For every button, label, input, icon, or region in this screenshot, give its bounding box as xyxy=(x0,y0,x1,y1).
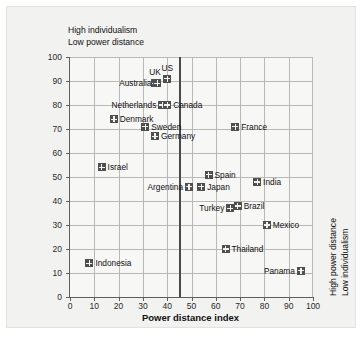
data-point-label: Japan xyxy=(207,182,230,192)
x-tick-label: 100 xyxy=(306,301,320,311)
y-tick xyxy=(66,249,70,250)
y-tick-label: 30 xyxy=(53,220,62,230)
y-tick-label: 90 xyxy=(53,76,62,86)
annotation-top-left-line1: High individualism xyxy=(68,25,144,37)
annotation-right: High power distance Low individualism xyxy=(328,218,351,296)
data-point-marker[interactable] xyxy=(234,202,242,210)
data-point-label: India xyxy=(263,177,281,187)
y-tick xyxy=(66,201,70,202)
data-point-label: Sweden xyxy=(151,122,181,132)
data-point-marker[interactable] xyxy=(163,101,171,109)
y-tick xyxy=(66,273,70,274)
data-point-label: Israel xyxy=(108,162,128,172)
data-point-label: Spain xyxy=(215,170,236,180)
data-point-marker[interactable] xyxy=(141,123,149,131)
y-tick-label: 60 xyxy=(53,148,62,158)
x-tick-label: 80 xyxy=(260,301,269,311)
y-axis-title: Individualism index xyxy=(0,83,1,171)
data-point-marker[interactable] xyxy=(185,183,193,191)
scatter-chart-figure: High individualism Low power distance Hi… xyxy=(0,0,362,340)
y-tick-label: 40 xyxy=(53,196,62,206)
data-point-label: Netherlands xyxy=(112,100,157,110)
chart-panel: High individualism Low power distance Hi… xyxy=(6,6,356,328)
data-point-marker[interactable] xyxy=(253,178,261,186)
data-point-marker[interactable] xyxy=(151,132,159,140)
y-tick-label: 20 xyxy=(53,244,62,254)
y-tick-label: 80 xyxy=(53,100,62,110)
annotation-right-line1: High power distance xyxy=(328,218,340,296)
x-tick-label: 30 xyxy=(138,301,147,311)
data-point-marker[interactable] xyxy=(263,221,271,229)
data-point-label: Australia xyxy=(119,78,151,88)
data-point-label: Brazil xyxy=(244,201,265,211)
x-axis-title: Power distance index xyxy=(69,312,312,323)
x-tick-label: 70 xyxy=(235,301,244,311)
x-tick-label: 20 xyxy=(114,301,123,311)
y-tick xyxy=(66,105,70,106)
data-point-marker[interactable] xyxy=(197,183,205,191)
y-tick xyxy=(66,153,70,154)
y-tick-label: 50 xyxy=(53,172,62,182)
data-point-label: Panama xyxy=(264,266,295,276)
plot-area: 0102030405060708090100010203040506070809… xyxy=(69,57,313,298)
data-point-marker[interactable] xyxy=(110,115,118,123)
data-point-label: Mexico xyxy=(273,220,299,230)
data-point-marker[interactable] xyxy=(297,267,305,275)
data-point-label: Indonesia xyxy=(95,258,131,268)
reference-line xyxy=(179,57,180,297)
x-tick-label: 60 xyxy=(211,301,220,311)
data-point-marker[interactable] xyxy=(205,171,213,179)
y-gridline xyxy=(70,57,313,58)
y-gridline xyxy=(70,201,313,202)
y-gridline xyxy=(70,249,313,250)
y-tick xyxy=(66,129,70,130)
y-gridline xyxy=(70,129,313,130)
data-point-marker[interactable] xyxy=(226,204,234,212)
data-point-label: Germany xyxy=(161,131,195,141)
x-tick-label: 90 xyxy=(284,301,293,311)
y-tick-label: 10 xyxy=(53,268,62,278)
y-gridline xyxy=(70,81,313,82)
data-point-label: Thailand xyxy=(232,244,264,254)
annotation-right-line2: Low individualism xyxy=(339,218,351,296)
data-point-label: France xyxy=(241,122,267,132)
data-point-marker[interactable] xyxy=(231,123,239,131)
data-point-label: UK xyxy=(149,67,161,77)
data-point-marker[interactable] xyxy=(98,163,106,171)
data-point-label: Turkey xyxy=(199,203,224,213)
data-point-label: US xyxy=(161,63,173,73)
y-tick xyxy=(66,81,70,82)
y-tick xyxy=(66,57,70,58)
y-tick-label: 0 xyxy=(57,292,62,302)
y-tick xyxy=(66,177,70,178)
x-tick-label: 40 xyxy=(162,301,171,311)
y-gridline xyxy=(70,153,313,154)
data-point-marker[interactable] xyxy=(85,259,93,267)
y-tick-label: 70 xyxy=(53,124,62,134)
y-tick xyxy=(66,297,70,298)
annotation-top-left-line2: Low power distance xyxy=(68,37,144,49)
data-point-marker[interactable] xyxy=(222,245,230,253)
data-point-marker[interactable] xyxy=(153,79,161,87)
y-tick xyxy=(66,225,70,226)
x-tick-label: 10 xyxy=(90,301,99,311)
data-point-label: Canada xyxy=(173,100,202,110)
x-tick-label: 50 xyxy=(187,301,196,311)
data-point-marker[interactable] xyxy=(163,75,171,83)
data-point-label: Argentina xyxy=(148,182,184,192)
annotation-top-left: High individualism Low power distance xyxy=(68,25,144,48)
x-tick-label: 0 xyxy=(68,301,73,311)
y-tick-label: 100 xyxy=(48,52,62,62)
